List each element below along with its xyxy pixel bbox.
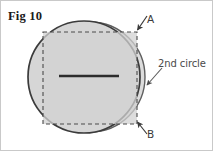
arrow-to-point-a (138, 16, 148, 30)
second-circle-annotation: 2nd circle (158, 58, 206, 69)
point-label-b: B (147, 129, 154, 140)
annotation-arrow (147, 68, 162, 85)
figure-container: Fig 10 A B 2nd circle (0, 0, 213, 151)
point-label-a: A (147, 14, 154, 25)
figure-caption: Fig 10 (8, 9, 42, 23)
inscribed-square (43, 32, 137, 124)
arrow-to-point-b (138, 122, 148, 134)
figure-drawing (1, 1, 213, 151)
